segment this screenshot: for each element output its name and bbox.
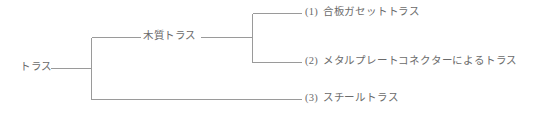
leaf-item-2: (2) メタルプレートコネクターによるトラス xyxy=(305,56,517,67)
tree-diagram: トラス 木質トラス (1) 合板ガセットトラス (2) メタルプレートコネクター… xyxy=(0,0,549,115)
leaf-1-label: 合板ガセットトラス xyxy=(323,7,420,18)
leaf-1-index: (1) xyxy=(305,7,318,18)
leaf-item-3: (3) スチールトラス xyxy=(305,93,398,104)
leaf-item-1: (1) 合板ガセットトラス xyxy=(305,7,420,18)
leaf-3-index: (3) xyxy=(305,93,318,104)
root-node-label: トラス xyxy=(20,62,52,73)
branch-label-wood-truss: 木質トラス xyxy=(143,31,196,42)
leaf-2-index: (2) xyxy=(305,56,318,67)
leaf-3-label: スチールトラス xyxy=(323,93,399,104)
leaf-2-label: メタルプレートコネクターによるトラス xyxy=(323,56,517,67)
